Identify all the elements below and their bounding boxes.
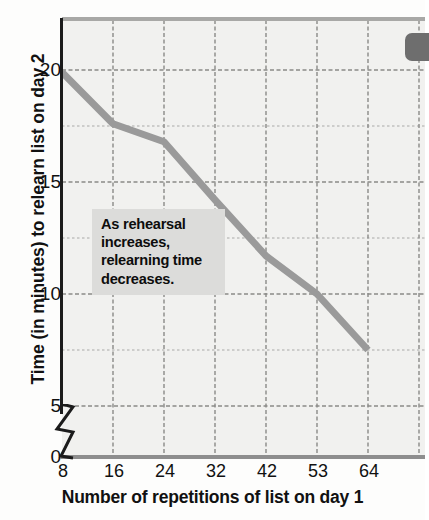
x-tick-label-16: 16 bbox=[92, 461, 136, 482]
y-axis-break-icon bbox=[51, 404, 77, 460]
x-tick-label-42: 42 bbox=[245, 461, 289, 482]
x-axis-title: Number of repetitions of list on day 1 bbox=[0, 487, 425, 508]
x-axis-line bbox=[60, 455, 425, 459]
annotation-line-1: As rehearsal bbox=[101, 215, 217, 233]
y-tick-label-15: 15 bbox=[21, 171, 61, 193]
x-tick-label-64: 64 bbox=[347, 461, 391, 482]
x-tick-label-53: 53 bbox=[296, 461, 340, 482]
annotation-line-3: relearning time bbox=[101, 251, 217, 269]
plot-top-edge bbox=[62, 17, 425, 21]
page-edge-mark bbox=[405, 33, 429, 61]
annotation-line-4: decreases. bbox=[101, 270, 217, 288]
y-tick-label-10: 10 bbox=[21, 283, 61, 305]
annotation-callout: As rehearsal increases, relearning time … bbox=[92, 209, 225, 295]
annotation-line-2: increases, bbox=[101, 233, 217, 251]
x-tick-label-8: 8 bbox=[41, 461, 85, 482]
y-axis-line bbox=[60, 18, 63, 414]
y-tick-label-20: 20 bbox=[21, 59, 61, 81]
x-tick-label-32: 32 bbox=[194, 461, 238, 482]
x-tick-label-24: 24 bbox=[143, 461, 187, 482]
